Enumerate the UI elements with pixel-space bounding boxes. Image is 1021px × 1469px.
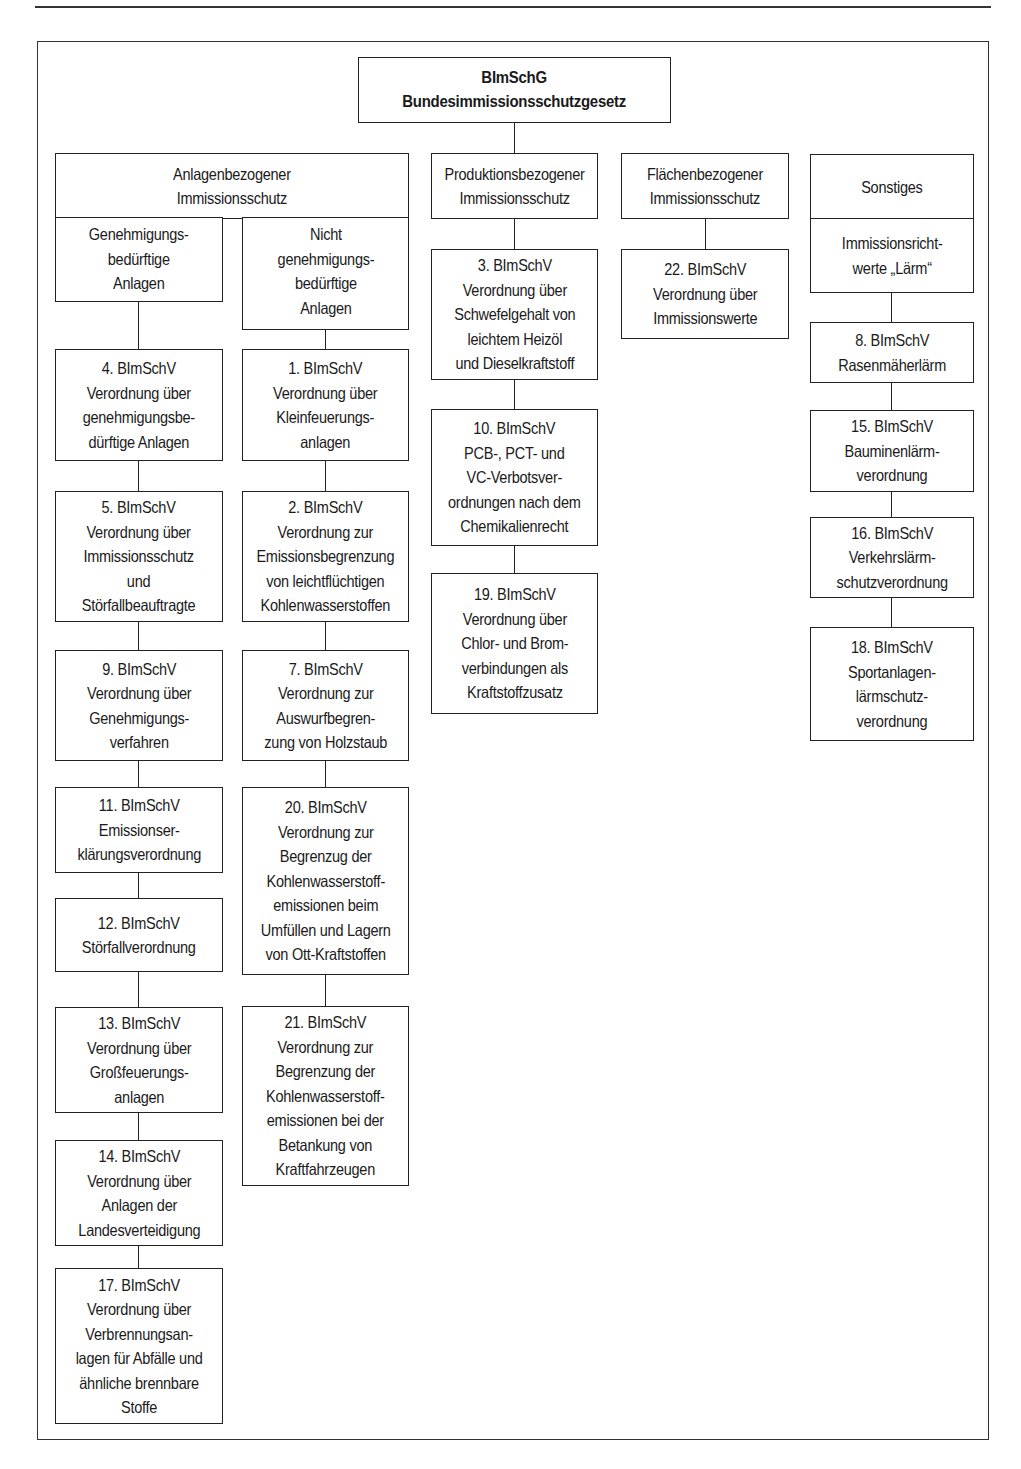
regulation-box: 8. BImSchV Rasenmäherlärm xyxy=(810,322,974,383)
connector xyxy=(891,492,892,517)
root-node-bimschg: BImSchG Bundesimmissionsschutzgesetz xyxy=(358,57,671,123)
regulation-label: 12. BImSchV Störfallverordnung xyxy=(82,911,196,960)
connector xyxy=(514,380,515,409)
connector xyxy=(325,461,326,491)
connector xyxy=(891,598,892,627)
regulation-label: 22. BImSchV Verordnung über Immissionswe… xyxy=(653,257,757,331)
regulation-label: 3. BImSchV Verordnung über Schwefelgehal… xyxy=(454,253,575,376)
regulation-label: 19. BImSchV Verordnung über Chlor- und B… xyxy=(461,582,568,705)
category-anlagenbezogen: Anlagenbezogener Immissionsschutz xyxy=(55,153,409,219)
category-label: Anlagenbezogener Immissionsschutz xyxy=(173,162,291,211)
sub-label: Nicht genehmigungs- bedürftige Anlagen xyxy=(277,222,374,320)
regulation-box: 18. BImSchV Sportanlagen- lärmschutz- ve… xyxy=(810,627,974,741)
regulation-box: 20. BImSchV Verordnung zur Begrenzug der… xyxy=(242,787,409,975)
regulation-label: 20. BImSchV Verordnung zur Begrenzug der… xyxy=(261,795,391,967)
regulation-box: 21. BImSchV Verordnung zur Begrenzung de… xyxy=(242,1006,409,1186)
regulation-box: 12. BImSchV Störfallverordnung xyxy=(55,898,223,972)
sub-label: Genehmigungs- bedürftige Anlagen xyxy=(89,222,189,296)
category-label: Produktionsbezogener Immissionsschutz xyxy=(444,162,584,211)
regulation-box: 9. BImSchV Verordnung über Genehmigungs-… xyxy=(55,650,223,761)
connector xyxy=(325,329,326,349)
regulation-label: 9. BImSchV Verordnung über Genehmigungs-… xyxy=(87,657,191,755)
connector xyxy=(891,383,892,410)
category-produktionsbezogen: Produktionsbezogener Immissionsschutz xyxy=(431,153,598,219)
sub-genehmigungsbeduerftig: Genehmigungs- bedürftige Anlagen xyxy=(55,217,223,302)
regulation-box: 19. BImSchV Verordnung über Chlor- und B… xyxy=(431,573,598,714)
connector xyxy=(138,1246,139,1268)
connector xyxy=(138,1113,139,1140)
connector xyxy=(138,461,139,491)
regulation-label: 7. BImSchV Verordnung zur Auswurfbegren-… xyxy=(264,657,387,755)
regulation-box: 15. BImSchV Bauminenlärm- verordnung xyxy=(810,410,974,492)
connector xyxy=(138,972,139,1007)
regulation-box: 16. BImSchV Verkehrslärm- schutzverordnu… xyxy=(810,517,974,598)
connector xyxy=(325,622,326,650)
regulation-label: 2. BImSchV Verordnung zur Emissionsbegre… xyxy=(257,495,395,618)
connector xyxy=(705,219,706,249)
connector xyxy=(325,761,326,787)
regulation-box: 7. BImSchV Verordnung zur Auswurfbegren-… xyxy=(242,650,409,761)
regulation-label: 11. BImSchV Emissionser- klärungsverordn… xyxy=(77,793,201,867)
regulation-label: 16. BImSchV Verkehrslärm- schutzverordnu… xyxy=(836,521,947,595)
regulation-label: 13. BImSchV Verordnung über Großfeuerung… xyxy=(87,1011,191,1109)
regulation-box: 13. BImSchV Verordnung über Großfeuerung… xyxy=(55,1007,223,1113)
connector xyxy=(514,219,515,249)
regulation-box: 1. BImSchV Verordnung über Kleinfeuerung… xyxy=(242,349,409,461)
regulation-label: 14. BImSchV Verordnung über Anlagen der … xyxy=(78,1144,200,1242)
category-label: Sonstiges xyxy=(861,175,922,200)
regulation-label: 21. BImSchV Verordnung zur Begrenzung de… xyxy=(266,1010,384,1182)
top-rule xyxy=(35,6,991,8)
regulation-box: 14. BImSchV Verordnung über Anlagen der … xyxy=(55,1140,223,1246)
category-label: Flächenbezogener Immissionsschutz xyxy=(647,162,763,211)
regulation-label: 4. BImSchV Verordnung über genehmigungsb… xyxy=(83,356,195,454)
regulation-box: 5. BImSchV Verordnung über Immissionssch… xyxy=(55,491,223,622)
regulation-box: 3. BImSchV Verordnung über Schwefelgehal… xyxy=(431,249,598,380)
connector xyxy=(891,292,892,322)
regulation-box: 10. BImSchV PCB-, PCT- und VC-Verbotsver… xyxy=(431,409,598,546)
regulation-box: 2. BImSchV Verordnung zur Emissionsbegre… xyxy=(242,491,409,622)
regulation-box: 22. BImSchV Verordnung über Immissionswe… xyxy=(621,249,789,339)
connector xyxy=(138,873,139,898)
connector xyxy=(325,975,326,1006)
regulation-box: 11. BImSchV Emissionser- klärungsverordn… xyxy=(55,787,223,873)
sub-label: Immissionsricht- werte „Lärm“ xyxy=(842,231,943,280)
regulation-label: 8. BImSchV Rasenmäherlärm xyxy=(838,328,946,377)
category-flaechenbezogen: Flächenbezogener Immissionsschutz xyxy=(621,153,789,219)
root-label: BImSchG Bundesimmissionsschutzgesetz xyxy=(403,66,627,115)
regulation-label: 1. BImSchV Verordnung über Kleinfeuerung… xyxy=(273,356,377,454)
connector xyxy=(138,301,139,349)
regulation-box: 17. BImSchV Verordnung über Verbrennungs… xyxy=(55,1268,223,1424)
connector xyxy=(138,622,139,650)
sub-nicht-genehmigungsbeduerftig: Nicht genehmigungs- bedürftige Anlagen xyxy=(242,217,409,330)
connector xyxy=(138,761,139,787)
regulation-label: 5. BImSchV Verordnung über Immissionssch… xyxy=(82,495,196,618)
regulation-label: 10. BImSchV PCB-, PCT- und VC-Verbotsver… xyxy=(448,416,580,539)
sub-immissionsrichtwerte-laerm: Immissionsricht- werte „Lärm“ xyxy=(810,218,974,293)
connector xyxy=(514,123,515,153)
category-sonstiges: Sonstiges xyxy=(810,154,974,220)
regulation-box: 4. BImSchV Verordnung über genehmigungsb… xyxy=(55,349,223,461)
regulation-label: 15. BImSchV Bauminenlärm- verordnung xyxy=(844,414,939,488)
regulation-label: 17. BImSchV Verordnung über Verbrennungs… xyxy=(76,1273,203,1420)
connector xyxy=(514,546,515,573)
regulation-label: 18. BImSchV Sportanlagen- lärmschutz- ve… xyxy=(848,635,936,733)
